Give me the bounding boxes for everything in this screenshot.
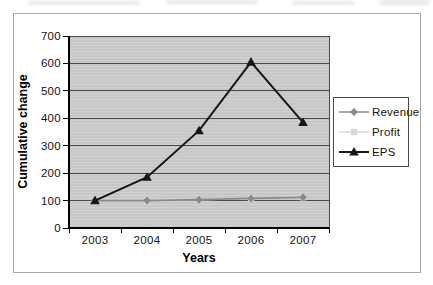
legend-item-profit: Profit — [338, 125, 408, 139]
y-tick-label: 300 — [25, 139, 61, 153]
chart-svg — [62, 36, 334, 236]
scan-artifact — [166, 0, 258, 4]
scan-artifact — [380, 0, 430, 5]
x-tick-label: 2007 — [281, 233, 325, 247]
y-tick-label: 500 — [25, 84, 61, 98]
series-revenue — [91, 193, 307, 204]
y-tick-label: 700 — [25, 29, 61, 43]
figure: Cumulative change Years Revenue Profit E… — [13, 13, 421, 273]
y-tick-label: 200 — [25, 166, 61, 180]
scan-artifact — [28, 1, 140, 5]
legend-label-profit: Profit — [372, 126, 400, 138]
legend-label-revenue: Revenue — [372, 106, 419, 118]
profit-line-marker-icon — [338, 126, 370, 138]
scanned-chart-page: { "figure": { "border_color": "#a6a6a6",… — [0, 0, 433, 285]
y-tick-label: 0 — [25, 221, 61, 235]
legend-item-eps: EPS — [338, 145, 408, 159]
legend-label-eps: EPS — [372, 146, 396, 158]
legend-item-revenue: Revenue — [338, 105, 408, 119]
y-tick-label: 100 — [25, 194, 61, 208]
revenue-line-marker-icon — [338, 106, 370, 118]
x-tick-label: 2004 — [125, 233, 169, 247]
series-eps — [90, 57, 308, 204]
eps-line-marker-icon — [338, 146, 370, 158]
x-axis-title: Years — [129, 251, 269, 265]
x-tick-label: 2003 — [73, 233, 117, 247]
x-tick-label: 2005 — [177, 233, 221, 247]
y-tick-label: 400 — [25, 111, 61, 125]
scan-artifact — [292, 1, 354, 5]
y-tick-label: 600 — [25, 56, 61, 70]
legend: Revenue Profit EPS — [333, 97, 409, 167]
x-tick-label: 2006 — [229, 233, 273, 247]
